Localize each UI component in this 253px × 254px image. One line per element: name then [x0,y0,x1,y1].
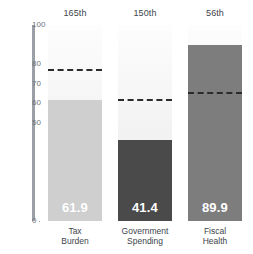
x-axis-label-government-spending: Government Spending [110,226,180,246]
reference-line-government-spending [118,99,172,101]
bar-fiscal-health: 89.9 [188,45,242,221]
bar-value-tax-burden: 61.9 [48,200,102,215]
y-axis-tick-100: 100 [32,21,40,29]
column-government-spending: 41.4 [110,25,180,221]
y-axis-tick-80: 80 [32,60,40,68]
bar-government-spending: 41.4 [118,140,172,221]
y-axis-tick-label: 0 [32,217,39,225]
bar-value-fiscal-health: 89.9 [188,200,242,215]
x-axis-label-line: Burden [40,236,110,246]
y-axis-tick-50: 50 [32,119,40,127]
x-axis-label-fiscal-health: Fiscal Health [180,226,250,246]
bar-tax-burden: 61.9 [48,100,102,221]
x-axis-label-line: Government [110,226,180,236]
plot-area: 050607080100 61.9 41.4 89.9 [40,25,250,221]
bar-chart: 165th 150th 56th 050607080100 61.9 41.4 [0,0,253,254]
x-axis-category-row: Tax Burden Government Spending Fiscal He… [40,226,250,246]
x-axis-label-line: Tax [40,226,110,236]
rank-label-row: 165th 150th 56th [40,4,250,22]
y-axis-tick-60: 60 [32,99,40,107]
column-tax-burden: 61.9 [40,25,110,221]
x-axis-label-line: Fiscal [180,226,250,236]
rank-label-government-spending: 150th [110,4,180,22]
rank-label-fiscal-health: 56th [180,4,250,22]
bar-value-government-spending: 41.4 [118,200,172,215]
reference-line-tax-burden [48,69,102,71]
x-axis-label-line: Spending [110,236,180,246]
x-axis-label-line: Health [180,236,250,246]
y-axis-tick-70: 70 [32,80,40,88]
reference-line-fiscal-health [188,92,242,94]
x-axis-label-tax-burden: Tax Burden [40,226,110,246]
bar-columns: 61.9 41.4 89.9 [40,25,250,221]
y-axis-tick-0: 0 [32,217,40,225]
rank-label-tax-burden: 165th [40,4,110,22]
column-fiscal-health: 89.9 [180,25,250,221]
